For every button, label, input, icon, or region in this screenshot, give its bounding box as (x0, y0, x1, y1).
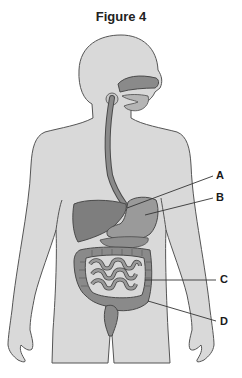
label-d: D (220, 315, 228, 327)
label-a: A (216, 169, 224, 181)
label-b: B (216, 191, 224, 203)
label-c: C (220, 273, 228, 285)
digestive-system-diagram (0, 0, 242, 378)
